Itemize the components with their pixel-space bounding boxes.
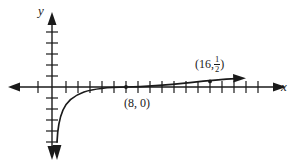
x-axis-label: x	[281, 80, 287, 93]
point-marker-16-half	[208, 80, 212, 84]
x-intercept-label: (8, 0)	[124, 97, 150, 109]
log-curve-path	[57, 79, 236, 142]
fraction-numerator: 1	[214, 55, 220, 64]
x-axis-left-arrowhead	[8, 83, 20, 92]
y-axis-group	[46, 12, 58, 160]
plot-canvas	[0, 0, 297, 166]
point-16-half-label: (16,12)	[195, 55, 224, 74]
curve-right-arrowhead	[233, 74, 246, 83]
logarithmic-graph-figure: y x (8, 0) (16,12)	[0, 0, 297, 166]
y-axis-label: y	[38, 4, 44, 17]
point-label-close-paren: )	[220, 58, 224, 70]
point-label-x-value: 16,	[199, 58, 214, 70]
point-marker-x-intercept	[124, 85, 128, 89]
fraction-denominator: 2	[214, 65, 220, 74]
point-label-fraction: 12	[214, 55, 220, 74]
y-axis-up-arrowhead	[48, 12, 57, 25]
